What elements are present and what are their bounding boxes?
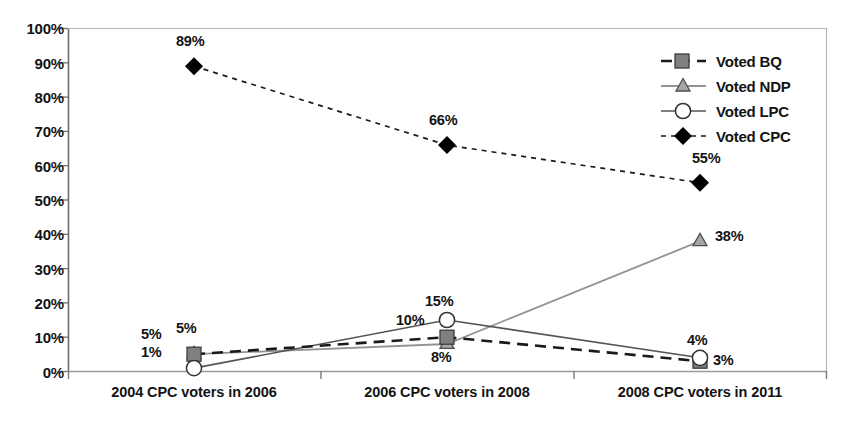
data-label-bq-3: 3% (713, 352, 734, 368)
data-label-ndp-3: 38% (715, 228, 743, 244)
data-label-ndp-2: 8% (431, 349, 452, 365)
legend-item-voted-lpc[interactable]: Voted LPC (716, 103, 789, 120)
legend-item-voted-cpc[interactable]: Voted CPC (716, 128, 791, 145)
legend-sample-voted-cpc (661, 127, 706, 145)
data-label-ndp-1: 5% (176, 320, 197, 336)
legend-item-voted-ndp[interactable]: Voted NDP (716, 78, 791, 95)
data-label-bq-1: 5% (141, 326, 162, 342)
x-category-label-3: 2008 CPC voters in 2011 (618, 384, 783, 400)
y-tick-label-60: 60% (8, 157, 64, 174)
y-tick-label-20: 20% (8, 294, 64, 311)
y-tick-label-0: 0% (8, 363, 64, 380)
x-category-label-1: 2004 CPC voters in 2006 (111, 384, 276, 400)
legend-sample-voted-bq (661, 54, 706, 68)
data-label-lpc-2: 15% (425, 293, 453, 309)
y-tick-label-100: 100% (8, 20, 64, 37)
data-label-cpc-3: 55% (692, 150, 720, 166)
data-label-cpc-1: 89% (176, 33, 204, 49)
data-label-lpc-3: 4% (687, 332, 708, 348)
y-tick-label-90: 90% (8, 54, 64, 71)
legend-sample-voted-ndp (661, 79, 706, 92)
data-label-bq-2: 10% (396, 312, 424, 328)
legend-sample-voted-lpc (661, 103, 706, 118)
legend-item-voted-bq[interactable]: Voted BQ (716, 53, 782, 70)
data-label-lpc-1: 1% (141, 344, 162, 360)
y-tick-label-10: 10% (8, 329, 64, 346)
y-tick-label-40: 40% (8, 226, 64, 243)
y-tick-label-70: 70% (8, 123, 64, 140)
y-tick-label-30: 30% (8, 260, 64, 277)
y-tick-label-50: 50% (8, 192, 64, 209)
x-category-label-2: 2006 CPC voters in 2008 (364, 384, 529, 400)
y-tick-label-80: 80% (8, 89, 64, 106)
data-label-cpc-2: 66% (429, 112, 457, 128)
chart-container: 100% 90% 80% 70% 60% 50% 40% 30% 20% 10%… (0, 0, 853, 430)
